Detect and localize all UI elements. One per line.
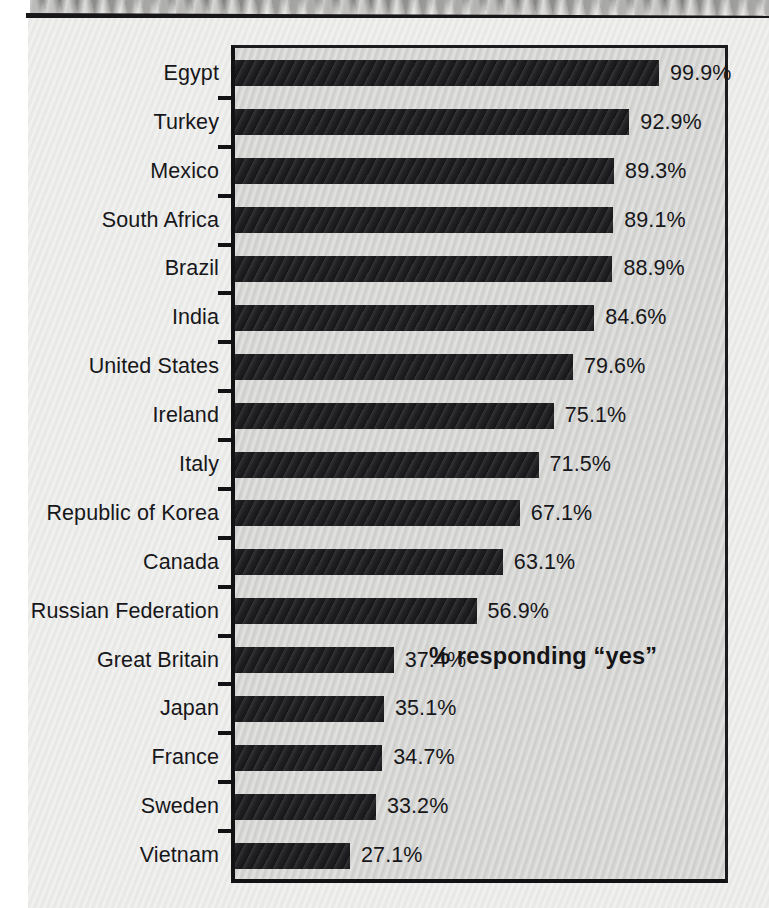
category-label: Sweden: [141, 794, 219, 819]
category-label: Vietnam: [140, 843, 219, 868]
plot-area: Egypt99.9%Turkey92.9%Mexico89.3%South Af…: [231, 45, 728, 883]
category-label: India: [172, 305, 219, 330]
category-label: Canada: [143, 550, 219, 575]
axis-tick-mark: [218, 585, 232, 589]
bar-value-label: 89.3%: [625, 159, 686, 184]
bar: [235, 500, 520, 526]
bar-row: Ireland75.1%: [235, 403, 725, 429]
bar-row: Sweden33.2%: [235, 794, 725, 820]
bar-row: South Africa89.1%: [235, 207, 725, 233]
axis-tick-mark: [218, 438, 232, 442]
bar-row: United States79.6%: [235, 354, 725, 380]
axis-tick-mark: [218, 96, 232, 100]
bar-row: Republic of Korea67.1%: [235, 500, 725, 526]
axis-tick-mark: [218, 243, 232, 247]
axis-tick-mark: [218, 340, 232, 344]
bar: [235, 305, 594, 331]
bar-chart-figure: Egypt99.9%Turkey92.9%Mexico89.3%South Af…: [0, 0, 769, 908]
bar-row: Russian Federation56.9%: [235, 598, 725, 624]
category-label: United States: [89, 354, 219, 379]
bar-row: Italy71.5%: [235, 452, 725, 478]
bar: [235, 696, 384, 722]
bar: [235, 207, 613, 233]
category-label: Russian Federation: [31, 599, 219, 624]
bar-value-label: 71.5%: [550, 452, 611, 477]
bar-value-label: 33.2%: [387, 794, 448, 819]
bar-value-label: 67.1%: [531, 501, 592, 526]
axis-tick-mark: [218, 682, 232, 686]
category-label: Republic of Korea: [46, 501, 219, 526]
bar: [235, 843, 350, 869]
category-label: France: [151, 745, 219, 770]
axis-tick-mark: [218, 291, 232, 295]
bar-value-label: 84.6%: [605, 305, 666, 330]
bar-value-label: 92.9%: [640, 110, 701, 135]
bar: [235, 598, 477, 624]
bar: [235, 745, 382, 771]
bar-value-label: 63.1%: [514, 550, 575, 575]
axis-tick-mark: [218, 389, 232, 393]
bar: [235, 158, 614, 184]
bar-value-label: 27.1%: [361, 843, 422, 868]
category-label: Egypt: [164, 61, 219, 86]
bar-row: Japan35.1%: [235, 696, 725, 722]
category-label: Turkey: [153, 110, 219, 135]
bar-row: Canada63.1%: [235, 549, 725, 575]
axis-tick-mark: [218, 536, 232, 540]
category-label: Brazil: [165, 256, 219, 281]
axis-tick-mark: [218, 487, 232, 491]
axis-tick-mark: [218, 145, 232, 149]
axis-tick-mark: [218, 731, 232, 735]
bar-value-label: 88.9%: [623, 256, 684, 281]
bar: [235, 452, 539, 478]
axis-tick-mark: [218, 780, 232, 784]
bar: [235, 109, 629, 135]
bar: [235, 354, 573, 380]
category-label: South Africa: [102, 208, 219, 233]
axis-tick-mark: [218, 194, 232, 198]
bar-row: Egypt99.9%: [235, 60, 725, 86]
axis-tick-mark: [218, 634, 232, 638]
bar: [235, 256, 612, 282]
bar: [235, 60, 659, 86]
bar-value-label: 56.9%: [488, 599, 549, 624]
category-label: Great Britain: [97, 648, 219, 673]
bar-row: Vietnam27.1%: [235, 843, 725, 869]
bar: [235, 647, 394, 673]
bar: [235, 403, 554, 429]
bar-value-label: 89.1%: [624, 208, 685, 233]
category-label: Italy: [179, 452, 219, 477]
bar: [235, 794, 376, 820]
bar-row: Brazil88.9%: [235, 256, 725, 282]
bar-value-label: 35.1%: [395, 696, 456, 721]
bar-value-label: 34.7%: [393, 745, 454, 770]
bar: [235, 549, 503, 575]
category-label: Mexico: [150, 159, 219, 184]
bar-row: India84.6%: [235, 305, 725, 331]
bar-value-label: 75.1%: [565, 403, 626, 428]
bar-row: Turkey92.9%: [235, 109, 725, 135]
category-label: Japan: [160, 696, 219, 721]
bar-value-label: 79.6%: [584, 354, 645, 379]
bar-row: France34.7%: [235, 745, 725, 771]
chart-annotation: % responding “yes”: [429, 643, 657, 670]
category-label: Ireland: [153, 403, 219, 428]
bar-row: Mexico89.3%: [235, 158, 725, 184]
axis-tick-mark: [218, 829, 232, 833]
bar-value-label: 99.9%: [670, 61, 731, 86]
